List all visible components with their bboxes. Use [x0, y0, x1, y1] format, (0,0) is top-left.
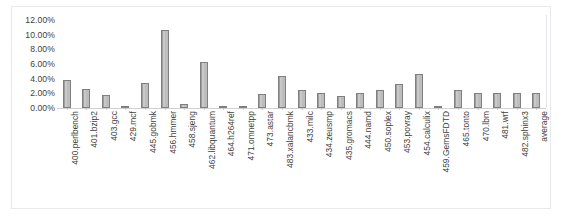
bar-slot [429, 20, 449, 108]
bar-slot [507, 20, 527, 108]
x-tick-slot: 434.zeusmp [311, 108, 331, 216]
x-tick-label: average [540, 111, 549, 142]
x-axis-labels: 400.perlbench401.bzip2403.gcc429.mcf445.… [57, 108, 546, 216]
y-tick-label: 4.00% [1, 75, 55, 84]
bar-slot [487, 20, 507, 108]
bar [532, 93, 540, 108]
bar-slot [409, 20, 429, 108]
x-tick-slot: 481.wrf [487, 108, 507, 216]
x-tick-slot: 482.sphinx3 [507, 108, 527, 216]
bar [63, 80, 71, 108]
bar [474, 93, 482, 108]
x-tick-mark [478, 108, 479, 110]
bar-slot [331, 20, 351, 108]
y-tick-label: 8.00% [1, 45, 55, 54]
x-tick-mark [184, 108, 185, 110]
x-tick-mark [165, 108, 166, 110]
x-tick-mark [438, 108, 439, 110]
bar-slot [214, 20, 234, 108]
x-tick-slot: 459.GemsFDTD [429, 108, 449, 216]
x-tick-mark [360, 108, 361, 110]
x-tick-slot: 465.tonto [448, 108, 468, 216]
bar-slot [194, 20, 214, 108]
bar-slot [253, 20, 273, 108]
bar-slot [155, 20, 175, 108]
bar [258, 94, 266, 108]
bar [395, 84, 403, 108]
bar-slot [174, 20, 194, 108]
bar [317, 93, 325, 108]
bar-slot [292, 20, 312, 108]
x-tick-slot: 435.gromacs [331, 108, 351, 216]
x-tick-slot: 470.lbm [468, 108, 488, 216]
bar-slot [57, 20, 77, 108]
x-tick-slot: 433.milc [292, 108, 312, 216]
x-tick-mark [399, 108, 400, 110]
bar [161, 30, 169, 108]
x-tick-slot: 456.hmmer [155, 108, 175, 216]
x-tick-slot: 462.libquantum [194, 108, 214, 216]
x-tick-mark [67, 108, 68, 110]
bar-slot [116, 20, 136, 108]
bar [415, 74, 423, 108]
x-tick-mark [204, 108, 205, 110]
bar-slot [311, 20, 331, 108]
bar-slot [527, 20, 547, 108]
bar [513, 93, 521, 108]
y-tick-label: 6.00% [1, 60, 55, 69]
x-tick-slot: 473.astar [253, 108, 273, 216]
x-tick-slot: 400.perlbench [57, 108, 77, 216]
bar [454, 90, 462, 108]
x-tick-slot: 403.gcc [96, 108, 116, 216]
plot-right-edge [546, 15, 547, 108]
x-tick-mark [321, 108, 322, 110]
bar [141, 83, 149, 108]
x-tick-mark [302, 108, 303, 110]
bar [356, 93, 364, 108]
bar-slot [448, 20, 468, 108]
x-tick-mark [145, 108, 146, 110]
bar [278, 76, 286, 108]
x-tick-mark [223, 108, 224, 110]
x-tick-slot: 450.soplex [370, 108, 390, 216]
bar-chart: 12.00% 10.00% 8.00% 6.00% 4.00% 2.00% 0.… [0, 0, 562, 216]
x-tick-mark [517, 108, 518, 110]
bar-series [57, 20, 546, 108]
x-tick-mark [536, 108, 537, 110]
y-tick-label: 2.00% [1, 89, 55, 98]
bar-slot [370, 20, 390, 108]
x-tick-mark [86, 108, 87, 110]
bar-slot [135, 20, 155, 108]
bar-slot [390, 20, 410, 108]
bar [102, 95, 110, 108]
x-tick-slot: average [527, 108, 547, 216]
bar-slot [468, 20, 488, 108]
x-tick-mark [243, 108, 244, 110]
x-tick-slot: 453.povray [390, 108, 410, 216]
bar [298, 90, 306, 108]
x-tick-mark [341, 108, 342, 110]
x-tick-slot: 445.gobmk [135, 108, 155, 216]
bar-slot [350, 20, 370, 108]
bar [337, 96, 345, 108]
y-tick-label: 0.00% [1, 104, 55, 113]
bar [376, 90, 384, 108]
x-tick-slot: 444.namd [350, 108, 370, 216]
x-tick-mark [282, 108, 283, 110]
bar [82, 89, 90, 108]
x-tick-slot: 464.h264ref [214, 108, 234, 216]
bar-slot [96, 20, 116, 108]
bar-slot [77, 20, 97, 108]
y-tick-label: 10.00% [1, 31, 55, 40]
y-tick-label: 12.00% [1, 16, 55, 25]
x-tick-slot: 471.omnetpp [233, 108, 253, 216]
x-tick-mark [380, 108, 381, 110]
x-tick-slot: 458.sjeng [174, 108, 194, 216]
x-tick-slot: 401.bzip2 [77, 108, 97, 216]
x-tick-mark [125, 108, 126, 110]
bar-slot [233, 20, 253, 108]
x-tick-slot: 429.mcf [116, 108, 136, 216]
x-tick-mark [106, 108, 107, 110]
bar [200, 62, 208, 108]
bar [493, 93, 501, 108]
